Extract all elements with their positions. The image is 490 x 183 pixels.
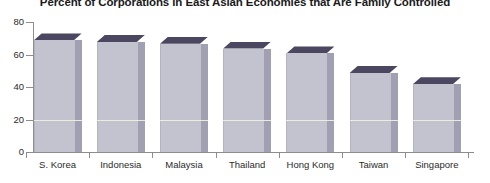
bar (286, 46, 334, 152)
y-axis-tick-label: 20 (0, 115, 24, 125)
x-axis-category-label: Malaysia (152, 160, 215, 170)
bar-front-face (413, 84, 454, 152)
bar (97, 35, 145, 152)
bar (34, 33, 82, 152)
y-axis-tick-label: 60 (0, 50, 24, 60)
x-axis-category-label: Indonesia (89, 160, 152, 170)
bar-top-face (160, 37, 208, 44)
bar-gridline (160, 120, 208, 121)
x-axis-separator (26, 152, 27, 158)
bar-side-face (74, 40, 82, 152)
x-axis-separator (405, 152, 406, 158)
bar-top-face (413, 77, 461, 84)
bar-side-face (200, 44, 208, 152)
y-axis-tick-label: 0 (0, 147, 24, 157)
y-axis-tick-label: 40 (0, 82, 24, 92)
x-axis-category-label: S. Korea (26, 160, 89, 170)
bar-gridline (34, 120, 82, 121)
bar-front-face (160, 44, 201, 152)
x-axis-category-label: Hong Kong (279, 160, 342, 170)
bar (413, 77, 461, 152)
bar-top-face (97, 35, 145, 42)
x-axis-separator (468, 152, 469, 158)
bar-front-face (97, 42, 138, 152)
bar (223, 42, 271, 153)
y-axis-tick (26, 152, 34, 153)
chart-title: Percent of Corporations in East Asian Ec… (0, 0, 490, 8)
bar-front-face (34, 40, 75, 152)
x-axis-separator (279, 152, 280, 158)
bar-top-face (223, 42, 271, 49)
bar (160, 37, 208, 152)
bar-gridline (286, 120, 334, 121)
x-axis-separator (152, 152, 153, 158)
bar-gridline (413, 120, 461, 121)
y-axis-tick-label: 80 (0, 17, 24, 27)
bar-gridline (223, 120, 271, 121)
bar-gridline (350, 120, 398, 121)
x-axis-category-label: Singapore (405, 160, 468, 170)
x-axis-line (26, 152, 474, 153)
bar-top-face (286, 46, 334, 53)
x-axis-separator (89, 152, 90, 158)
bar-top-face (350, 66, 398, 73)
bar-top-face (34, 33, 82, 40)
x-axis-category-label: Taiwan (342, 160, 405, 170)
bar-side-face (263, 49, 271, 153)
bar (350, 66, 398, 152)
bar-side-face (453, 84, 461, 152)
x-axis-separator (342, 152, 343, 158)
x-axis-category-label: Thailand (216, 160, 279, 170)
x-axis-separator (216, 152, 217, 158)
bar-front-face (223, 49, 264, 153)
bar-side-face (326, 53, 334, 152)
bar-side-face (390, 73, 398, 152)
bar-side-face (137, 42, 145, 152)
bar-gridline (97, 120, 145, 121)
bar-front-face (350, 73, 391, 152)
bar-front-face (286, 53, 327, 152)
y-axis-tick (26, 22, 34, 23)
chart-container: Percent of Corporations in East Asian Ec… (0, 0, 490, 183)
